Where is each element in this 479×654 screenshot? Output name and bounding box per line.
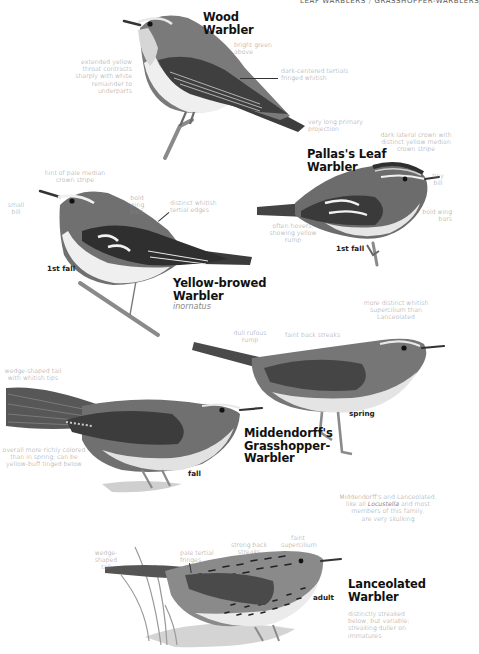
lanceolated-tail-note: wedge-shaped tail	[92, 549, 120, 571]
wood-warbler-tertials-note: dark-centered tertials fringed whitish	[281, 67, 371, 81]
yellow-browed-tertials-note: distinct whitish tertial edges	[170, 199, 226, 213]
name-line: Pallas's Leaf	[307, 148, 386, 161]
header-section: LEAF WARBLERS	[300, 0, 366, 5]
lanceolated-tertial-note: pale tertial fringes	[180, 549, 220, 563]
middendorffs-grasshopper-warbler-name: Middendorff's Grasshopper- Warbler	[244, 427, 333, 465]
name-line: Warbler	[307, 161, 386, 174]
header-separator: /	[369, 0, 372, 5]
wood-warbler-green-note: bright green above	[234, 41, 284, 55]
middendorffs-fall-label: fall	[188, 469, 201, 478]
lanceolated-streaking-note: distinctly streaked below, but variable;…	[348, 610, 410, 639]
general-note-line: members of this family,	[318, 507, 458, 514]
pallas-crown-note: dark lateral crown with distinct yellow …	[380, 131, 452, 153]
name-line: Warbler	[244, 452, 333, 465]
middendorffs-back-note: faint back streaks	[285, 331, 355, 338]
pallas-wingbars-note: bold wing bars	[414, 208, 452, 222]
middendorffs-fall-illustration	[2, 384, 264, 504]
yellow-browed-scientific-name: inornatus	[173, 302, 211, 311]
general-note-text: like all	[346, 500, 368, 507]
name-line: Lanceolated	[348, 578, 426, 591]
yellow-browed-wingbars-note: bold wing bars	[123, 194, 151, 216]
name-line: Wood	[203, 11, 254, 24]
lanceolated-back-note: strong back streaks	[228, 541, 270, 555]
leader-line	[240, 78, 278, 79]
name-line: Warbler	[348, 591, 426, 604]
running-header: LEAF WARBLERS / GRASSHOPPER-WARBLERS	[300, 0, 457, 5]
lanceolated-warbler-name: Lanceolated Warbler	[348, 578, 426, 603]
name-line: Warbler	[173, 290, 266, 303]
name-line: Yellow-browed	[173, 277, 266, 290]
lanceolated-supercilium-note: faint supercilium	[281, 534, 315, 548]
middendorffs-tail-note: wedge-shaped tail with whitish tips	[2, 367, 64, 381]
lanceolated-age-label: adult	[313, 593, 334, 602]
pallas-leaf-warbler-name: Pallas's Leaf Warbler	[307, 148, 386, 173]
name-line: Warbler	[203, 24, 254, 37]
general-note-text: and most	[399, 500, 430, 507]
general-note-line: Middendorff's and Lanceolated,	[318, 493, 458, 500]
general-note-line: are very skulking	[318, 515, 458, 522]
pallas-bill-note: tiny bill	[430, 172, 446, 186]
wood-warbler-name: Wood Warbler	[203, 11, 254, 36]
wood-warbler-throat-note: extended yellow throat contrasts sharply…	[74, 58, 132, 94]
yellow-browed-crown-note: hint of pale median crown stripe	[40, 169, 110, 183]
yellow-browed-bill-note: small bill	[5, 201, 27, 215]
middendorffs-supercilium-note: more distinct whitish supercilium than L…	[362, 299, 430, 321]
middendorffs-spring-label: spring	[349, 409, 375, 418]
middendorffs-fall-note: overall more richly colored than in spri…	[0, 446, 88, 468]
general-note-line: like all Locustella and most	[318, 500, 458, 507]
yellow-browed-warbler-name: Yellow-browed Warbler	[173, 277, 266, 302]
yellow-browed-age-label: 1st fall	[47, 264, 75, 273]
name-line: Middendorff's	[244, 427, 333, 440]
pallas-age-label: 1st fall	[336, 244, 364, 253]
genus-name: Locustella	[368, 500, 399, 507]
wood-warbler-primary-note: very long primary projection	[308, 118, 370, 132]
skulking-general-note: Middendorff's and Lanceolated, like all …	[318, 493, 458, 522]
pallas-hovers-note: often hovers, showing yellow rump	[266, 222, 320, 244]
middendorffs-rump-note: dull rufous rump	[232, 329, 268, 343]
header-subsection: GRASSHOPPER-WARBLERS	[374, 0, 479, 5]
lanceolated-warbler-illustration	[105, 545, 345, 650]
